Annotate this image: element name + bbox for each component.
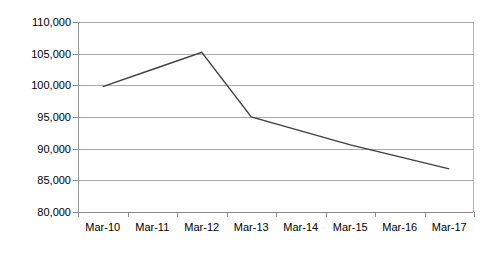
line-chart: 80,00085,00090,00095,000100,000105,00011… — [0, 0, 497, 254]
y-axis-tick-label: 80,000 — [0, 207, 71, 218]
clipped-chart-title — [60, 0, 180, 4]
y-axis-tick-label: 95,000 — [0, 112, 71, 123]
x-axis-tick-label: Mar-15 — [333, 222, 368, 233]
x-axis-tick-label: Mar-12 — [184, 222, 219, 233]
x-axis-tick — [474, 212, 475, 217]
gridline — [79, 180, 473, 181]
x-axis-tick — [177, 212, 178, 217]
x-axis-tick — [128, 212, 129, 217]
x-axis-tick — [375, 212, 376, 217]
y-axis-tick-label: 100,000 — [0, 80, 71, 91]
gridline — [79, 117, 473, 118]
y-axis-tick-label: 85,000 — [0, 175, 71, 186]
gridline — [79, 54, 473, 55]
x-axis-tick-label: Mar-10 — [85, 222, 120, 233]
x-axis-tick-label: Mar-17 — [432, 222, 467, 233]
x-axis-tick-label: Mar-11 — [135, 222, 169, 233]
x-axis-tick — [276, 212, 277, 217]
y-axis-tick-label: 110,000 — [0, 17, 71, 28]
x-axis-tick-label: Mar-14 — [283, 222, 318, 233]
gridline — [79, 85, 473, 86]
gridline — [79, 149, 473, 150]
x-axis-tick-label: Mar-13 — [234, 222, 269, 233]
x-axis-tick-label: Mar-16 — [382, 222, 417, 233]
y-axis-tick-label: 105,000 — [0, 48, 71, 59]
x-axis-tick — [78, 212, 79, 217]
x-axis-tick — [425, 212, 426, 217]
y-axis-tick-label: 90,000 — [0, 143, 71, 154]
x-axis-tick — [227, 212, 228, 217]
x-axis-tick — [326, 212, 327, 217]
plot-area — [78, 22, 474, 212]
gridline — [79, 22, 473, 23]
